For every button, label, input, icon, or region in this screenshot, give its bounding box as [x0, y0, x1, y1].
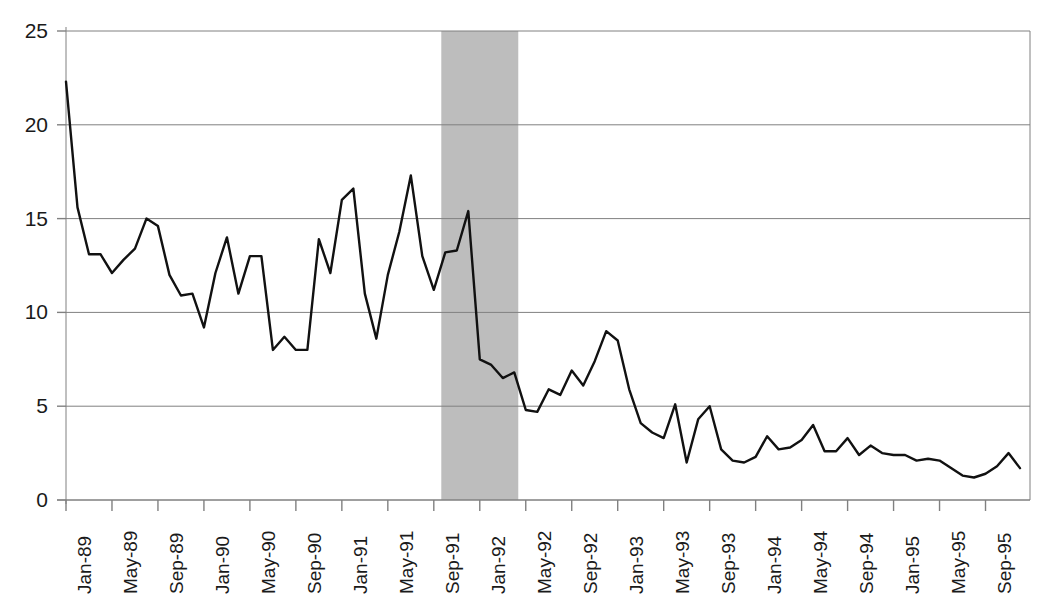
shaded-region-band — [441, 31, 518, 500]
line-chart: 0510152025 Jan-89May-89Sep-89Jan-90May-9… — [0, 0, 1046, 606]
data-series-line — [66, 82, 1020, 478]
chart-plot-area — [0, 0, 1046, 606]
